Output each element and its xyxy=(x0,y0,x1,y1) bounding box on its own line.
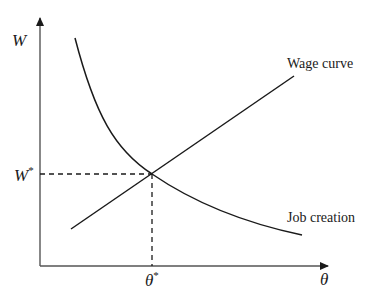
equilibrium-diagram: W θ Wage curve Job creation W* θ* xyxy=(0,0,371,297)
wage-curve-label: Wage curve xyxy=(287,56,353,71)
y-axis-label: W xyxy=(12,31,28,50)
theta-star-label: θ* xyxy=(145,269,159,290)
job-creation-curve xyxy=(75,38,302,235)
wage-curve xyxy=(71,76,294,229)
job-creation-label: Job creation xyxy=(287,210,355,225)
x-axis-label: θ xyxy=(320,270,328,289)
w-star-label: W* xyxy=(14,164,34,185)
